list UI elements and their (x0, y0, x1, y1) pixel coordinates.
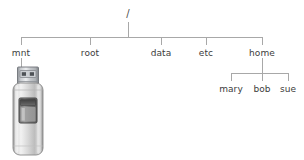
node-label-root-dir: root (81, 48, 99, 58)
node-label-data: data (151, 48, 172, 58)
node-label-home: home (249, 48, 275, 58)
usb-connector (18, 67, 39, 85)
usb-flash-drive-icon (10, 66, 46, 158)
usb-slider-window (19, 98, 37, 123)
filesystem-tree-diagram: / mnt root data etc home mary bob sue (0, 0, 304, 160)
node-label-mnt: mnt (12, 48, 30, 58)
node-label-mary: mary (219, 84, 243, 94)
node-label-sue: sue (280, 84, 296, 94)
node-label-root: / (126, 8, 129, 19)
node-label-bob: bob (253, 84, 270, 94)
node-label-etc: etc (199, 48, 213, 58)
